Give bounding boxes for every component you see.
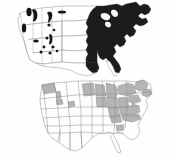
- top-map-east-shaded: [86, 2, 151, 76]
- top-choropleth-map: [0, 0, 173, 78]
- bottom-map-shaded-regions: [42, 80, 152, 131]
- bottom-map-svg: [0, 76, 173, 156]
- top-map-svg: [0, 0, 173, 78]
- two-map-figure: [0, 0, 173, 156]
- bottom-choropleth-map: [0, 76, 173, 156]
